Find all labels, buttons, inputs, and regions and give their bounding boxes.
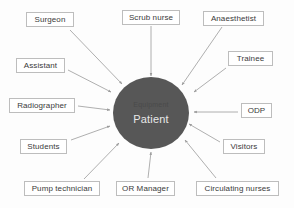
node-box-radiographer[interactable]: Radiographer [9,98,75,113]
node-label: Radiographer [17,102,67,110]
node-label: Anaesthetist [211,15,256,23]
node-label: Surgeon [35,16,66,24]
node-label: Students [27,143,59,151]
arrow-assistant [68,70,111,92]
node-label: Pump technician [32,185,93,193]
stakeholder-diagram: Equipment Patient Surgeon Scrub nurse An… [0,0,294,208]
node-label: ODP [248,107,266,115]
node-box-anaesthetist[interactable]: Anaesthetist [203,11,264,26]
center-node-secondary-label: Equipment [133,101,168,108]
arrow-circulating-nurses [185,140,216,178]
center-node-patient: Equipment Patient [113,77,189,149]
arrow-radiographer [78,106,110,110]
node-box-scrub-nurse[interactable]: Scrub nurse [122,10,180,25]
node-label: OR Manager [122,185,169,193]
center-node-primary-label: Patient [133,114,169,125]
node-box-odp[interactable]: ODP [241,103,272,118]
node-box-or-manager[interactable]: OR Manager [116,181,175,196]
node-label: Assistant [24,62,57,70]
arrow-trainee [194,68,226,92]
node-label: Visitors [231,143,258,151]
node-label: Circulating nurses [205,185,271,193]
node-box-assistant[interactable]: Assistant [16,58,65,73]
arrow-or-manager [148,152,151,178]
node-box-students[interactable]: Students [20,139,67,154]
arrow-visitors [189,124,220,142]
node-label: Scrub nurse [129,14,173,22]
arrow-pump-technician [84,143,119,179]
node-label: Trainee [237,55,265,63]
arrow-anaesthetist [182,27,222,85]
node-box-circulating-nurses[interactable]: Circulating nurses [196,181,279,196]
node-box-pump-technician[interactable]: Pump technician [24,181,100,196]
arrow-students [71,126,110,140]
node-box-visitors[interactable]: Visitors [223,139,265,154]
node-box-trainee[interactable]: Trainee [228,51,273,66]
arrow-surgeon [70,30,122,84]
node-box-surgeon[interactable]: Surgeon [26,12,74,27]
